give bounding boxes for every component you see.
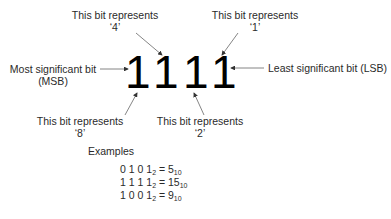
msb-label-line2: (MSB) (8, 75, 98, 87)
bit-label-4-value: ‘4’ (60, 21, 170, 33)
lsb-label: Least significant bit (LSB) (268, 62, 387, 74)
example-row: 1 1 1 12 = 1510 (120, 176, 188, 188)
example-base-in: 2 (152, 169, 156, 176)
example-base-out: 10 (174, 169, 182, 176)
example-binary: 1 1 1 1 (120, 176, 152, 188)
example-row: 0 1 0 12 = 510 (120, 163, 182, 175)
arrows-layer (0, 0, 391, 219)
bit-label-4: This bit represents ‘4’ (60, 9, 170, 33)
example-base-in: 2 (152, 182, 156, 189)
bit-label-2-value: ‘2’ (145, 127, 255, 139)
bit-label-8: This bit represents ‘8’ (25, 115, 135, 139)
examples-title: Examples (88, 145, 134, 157)
bit-label-2: This bit represents ‘2’ (145, 115, 255, 139)
example-base-out: 10 (180, 182, 188, 189)
bit-label-4-line1: This bit represents (60, 9, 170, 21)
bit-label-1: This bit represents ‘1’ (200, 9, 310, 33)
example-row: 1 0 0 12 = 910 (120, 189, 182, 201)
bit-label-1-line1: This bit represents (200, 9, 310, 21)
bit-2: 1 (153, 52, 173, 92)
example-equals: = (159, 189, 165, 201)
bit-label-1-value: ‘1’ (200, 21, 310, 33)
example-binary: 1 0 0 1 (120, 189, 152, 201)
bit-label-8-line1: This bit represents (25, 115, 135, 127)
example-equals: = (159, 176, 165, 188)
msb-label: Most significant bit (MSB) (8, 63, 98, 87)
example-binary: 0 1 0 1 (120, 163, 152, 175)
bit-3: 1 (183, 52, 203, 92)
bit-1: 1 (125, 52, 145, 92)
bit-4: 1 (211, 52, 231, 92)
example-decimal: 15 (168, 176, 180, 188)
bit-label-8-value: ‘8’ (25, 127, 135, 139)
msb-label-line1: Most significant bit (8, 63, 98, 75)
bit-label-2-line1: This bit represents (145, 115, 255, 127)
example-equals: = (159, 163, 165, 175)
example-base-in: 2 (152, 195, 156, 202)
example-base-out: 10 (174, 195, 182, 202)
